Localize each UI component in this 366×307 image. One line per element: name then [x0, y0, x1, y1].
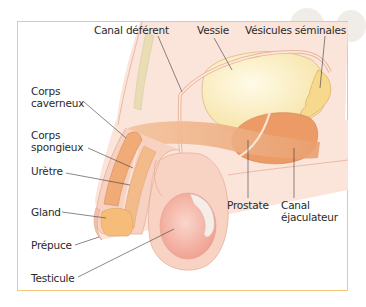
- diagram-stage: Canal déférent Vessie Vésicules séminale…: [0, 0, 366, 307]
- label-testicule: Testicule: [31, 272, 75, 284]
- label-canal-ejaculateur-line2: éjaculateur: [281, 211, 338, 223]
- label-corps-spongieux-line1: Corps: [31, 129, 60, 141]
- label-vesicules-seminales: Vésicules séminales: [245, 24, 346, 36]
- anatomy-illustration: [0, 0, 366, 307]
- label-canal-ejaculateur-line1: Canal: [281, 199, 310, 211]
- label-canal-deferent: Canal déférent: [94, 24, 169, 36]
- label-corps-spongieux-line2: spongieux: [31, 141, 83, 153]
- glans: [101, 208, 133, 236]
- label-prepuce: Prépuce: [31, 239, 72, 251]
- label-gland: Gland: [31, 206, 61, 218]
- label-uretre: Urètre: [31, 165, 63, 177]
- label-corps-caverneux-line2: caverneux: [31, 97, 84, 109]
- label-corps-caverneux-line1: Corps: [31, 85, 60, 97]
- label-vessie: Vessie: [197, 24, 229, 36]
- label-prostate: Prostate: [227, 199, 269, 211]
